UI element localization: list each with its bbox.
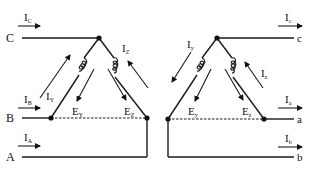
current-label-a: Ia	[285, 93, 292, 106]
terminal-B-label: B	[6, 111, 14, 125]
winding-Y	[84, 38, 99, 58]
terminal-a-label: a	[297, 113, 302, 125]
terminal-c-label: c	[297, 32, 302, 44]
node-bottom-right	[144, 115, 149, 120]
transformer-diagram: C IC B IB A IA IY IZ EY	[0, 0, 314, 172]
current-arrow-Iy	[172, 52, 191, 82]
coil-z	[231, 58, 236, 73]
current-label-A: IA	[24, 131, 33, 144]
coil-y	[197, 58, 205, 71]
current-arrow-IZ	[128, 61, 148, 88]
terminal-A-label: A	[6, 150, 15, 164]
current-label-IZ: IZ	[122, 42, 130, 55]
terminal-b-label: b	[297, 151, 303, 163]
winding-z	[217, 38, 232, 58]
emf-arrow-Ez	[225, 69, 243, 100]
current-label-c: Ic	[285, 11, 292, 24]
current-label-Iz: Iz	[261, 67, 268, 80]
emf-arrow-EZ	[108, 69, 126, 100]
emf-arrow-EY	[77, 69, 94, 101]
terminal-C-label: C	[6, 31, 14, 45]
current-label-C: IC	[24, 11, 32, 24]
node-bottom-right-secondary	[261, 116, 266, 121]
coil-Z	[113, 58, 118, 73]
winding-Z	[99, 38, 114, 58]
coil-Y	[79, 58, 87, 71]
winding-y	[202, 38, 217, 58]
node-bottom-left-secondary	[165, 116, 170, 121]
current-label-Iy: Iy	[187, 38, 194, 51]
secondary-delta: c Ic a Ia b Ib Iy Iz Ey	[165, 11, 303, 163]
node-bottom-left	[48, 115, 53, 120]
node-top	[96, 35, 101, 40]
emf-label-Ez: Ez	[242, 105, 252, 118]
current-label-b: Ib	[285, 132, 292, 145]
emf-label-EZ: EZ	[124, 105, 135, 118]
current-arrow-IY	[40, 55, 70, 98]
primary-delta: C IC B IB A IA IY IZ EY	[6, 11, 150, 164]
emf-label-Ey: Ey	[188, 105, 198, 118]
current-label-B: IB	[24, 93, 32, 106]
emf-label-EY: EY	[72, 105, 84, 118]
current-label-IY: IY	[46, 90, 55, 103]
emf-arrow-Ey	[195, 69, 211, 101]
node-top-secondary	[214, 35, 219, 40]
